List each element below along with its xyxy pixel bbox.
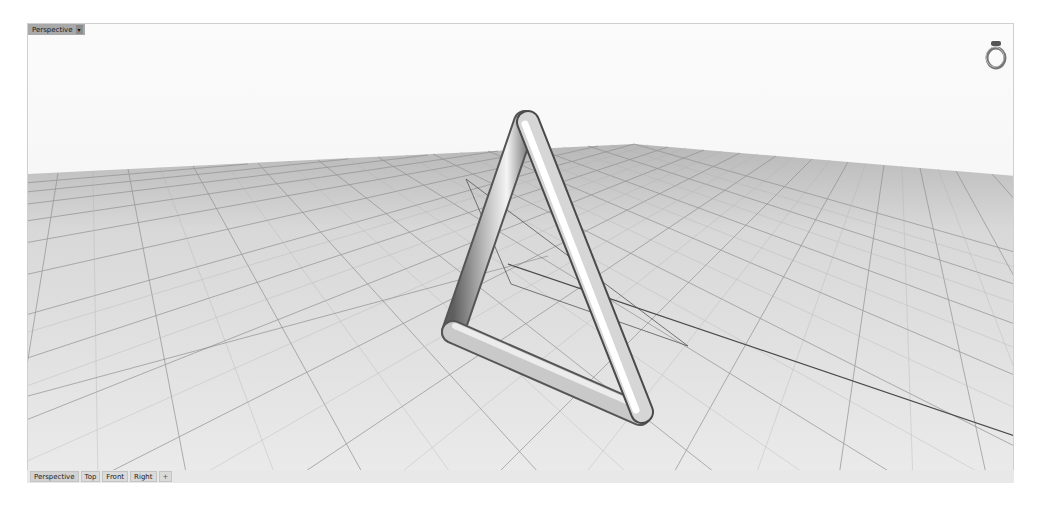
ground-grid: [28, 144, 1014, 482]
scene-canvas[interactable]: [28, 24, 1014, 482]
viewport-title[interactable]: Perspective: [30, 26, 75, 34]
viewport-perspective[interactable]: [27, 23, 1014, 482]
add-viewport-icon[interactable]: +: [159, 471, 173, 482]
tab-top[interactable]: Top: [81, 471, 101, 482]
chevron-down-icon[interactable]: ▾: [76, 25, 83, 34]
tab-right[interactable]: Right: [130, 471, 156, 482]
viewport-title-menu[interactable]: Perspective ▾: [28, 24, 85, 35]
tab-front[interactable]: Front: [102, 471, 128, 482]
tab-perspective[interactable]: Perspective: [30, 471, 79, 482]
viewport-tabs: Perspective Top Front Right +: [27, 470, 1014, 483]
ring-icon[interactable]: [985, 40, 1007, 70]
